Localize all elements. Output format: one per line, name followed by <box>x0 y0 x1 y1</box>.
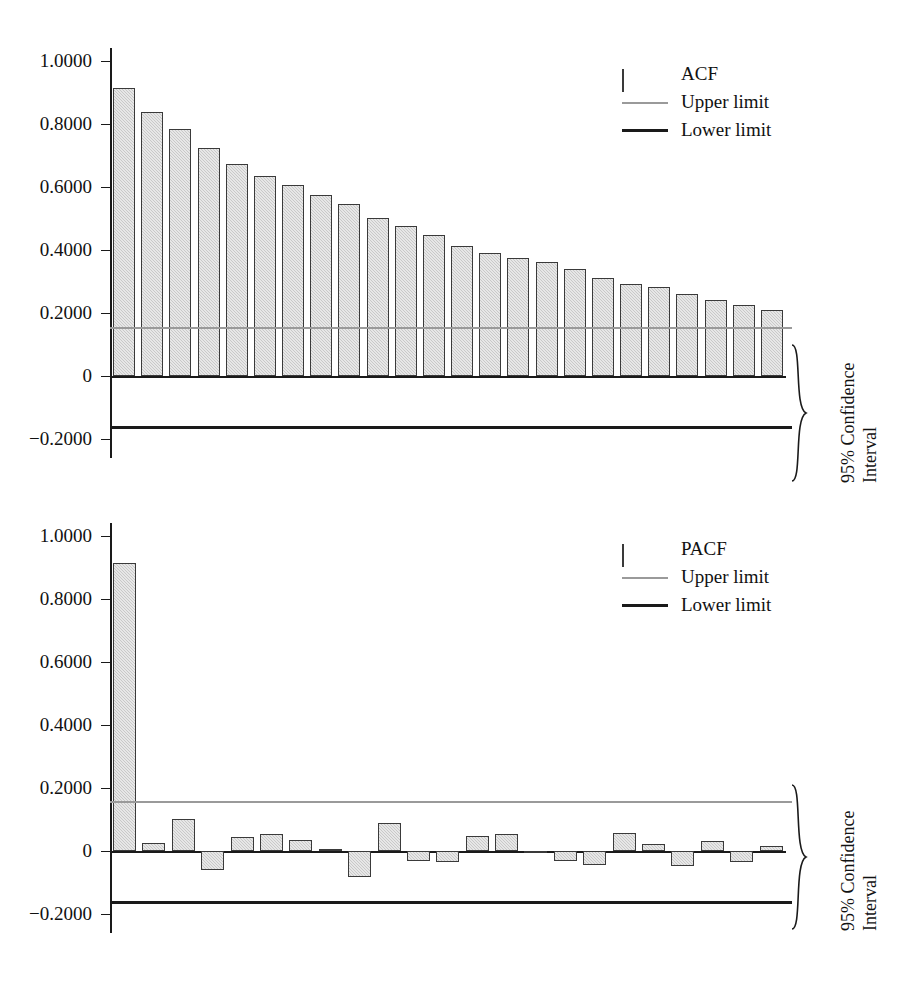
legend-item-lower-limit: Lower limit <box>622 591 771 619</box>
bar <box>676 294 698 376</box>
acf-ci-text-line2: Interval <box>860 427 881 483</box>
pacf-ci-text-line1: 95% Confidence <box>838 811 859 931</box>
y-axis-tick-label: 0 <box>0 841 92 860</box>
y-axis-tick <box>101 599 110 600</box>
upper-limit-line-icon <box>622 95 668 110</box>
y-axis-tick <box>101 61 110 62</box>
acf-ci-text-line1: 95% Confidence <box>838 363 859 483</box>
pacf-confidence-annotation: 95% Confidence Interval <box>790 783 905 931</box>
zero-baseline <box>110 376 786 378</box>
y-axis-tick-label: 0 <box>0 366 92 385</box>
bar <box>348 851 371 877</box>
y-axis-tick-label: 0.8000 <box>0 114 92 133</box>
bar <box>524 851 547 853</box>
y-axis-tick-label: 0.4000 <box>0 715 92 734</box>
y-axis-tick-label: 1.0000 <box>0 51 92 70</box>
bar <box>436 851 459 862</box>
acf-legend: ACF Upper limit Lower limit <box>622 60 771 144</box>
lower-limit-line <box>110 901 792 904</box>
legend-item-upper-limit: Upper limit <box>622 88 771 116</box>
bar <box>169 129 191 376</box>
y-axis-line <box>110 48 112 458</box>
y-axis-tick <box>101 439 110 440</box>
lower-limit-line <box>110 426 792 429</box>
bar <box>479 253 501 376</box>
pacf-ci-text-line2: Interval <box>860 875 881 931</box>
bar <box>172 819 195 851</box>
y-axis-tick <box>101 124 110 125</box>
bar <box>282 185 304 376</box>
page-header-text <box>0 0 907 10</box>
pacf-legend: PACF Upper limit Lower limit <box>622 535 771 619</box>
upper-limit-line <box>110 327 792 329</box>
bar <box>760 846 783 851</box>
legend-label-upper-limit: Upper limit <box>681 563 769 591</box>
legend-item-lower-limit: Lower limit <box>622 116 771 144</box>
y-axis-tick <box>101 725 110 726</box>
bar <box>423 235 445 376</box>
bar <box>254 176 276 376</box>
y-axis-tick <box>101 187 110 188</box>
bar <box>648 287 670 376</box>
bar <box>319 849 342 851</box>
legend-label-lower-limit: Lower limit <box>681 591 771 619</box>
y-axis-tick <box>101 914 110 915</box>
y-axis-tick <box>101 662 110 663</box>
bar <box>226 164 248 376</box>
y-axis-tick <box>101 851 110 852</box>
bar <box>451 246 473 376</box>
bar <box>198 148 220 376</box>
y-axis-tick <box>101 376 110 377</box>
upper-limit-line <box>110 801 792 803</box>
y-axis-tick <box>101 788 110 789</box>
acf-confidence-annotation: 95% Confidence Interval <box>790 343 905 483</box>
bar <box>142 843 165 851</box>
y-axis-tick <box>101 536 110 537</box>
bar <box>761 310 783 376</box>
bar <box>466 836 489 851</box>
curly-brace-icon <box>790 783 816 931</box>
bar <box>613 833 636 851</box>
legend-label-lower-limit: Lower limit <box>681 116 771 144</box>
bar <box>231 837 254 851</box>
bar <box>705 300 727 376</box>
bar <box>367 218 389 376</box>
legend-label-acf: ACF <box>681 60 718 88</box>
legend-item-pacf: PACF <box>622 535 771 563</box>
legend-label-upper-limit: Upper limit <box>681 88 769 116</box>
curly-brace-icon <box>790 343 816 483</box>
y-axis-tick-label: 0.6000 <box>0 652 92 671</box>
acf-swatch-icon <box>622 67 668 82</box>
bar <box>260 834 283 851</box>
acf-panel: 1.00000.80000.60000.40000.20000−0.2000 A… <box>0 30 907 500</box>
bar <box>407 851 430 861</box>
figure-page: 1.00000.80000.60000.40000.20000−0.2000 A… <box>0 0 907 986</box>
y-axis-tick-label: −0.2000 <box>0 904 92 923</box>
bar <box>536 262 558 376</box>
legend-label-pacf: PACF <box>681 535 727 563</box>
y-axis-line <box>110 523 112 933</box>
bar <box>310 195 332 376</box>
pacf-swatch-icon <box>622 542 668 557</box>
bar <box>583 851 606 865</box>
bar <box>620 284 642 376</box>
bar <box>733 305 755 376</box>
bar <box>113 88 135 376</box>
y-axis-tick <box>101 250 110 251</box>
bar <box>495 834 518 851</box>
y-axis-tick-label: 1.0000 <box>0 526 92 545</box>
bar <box>201 851 224 870</box>
legend-item-upper-limit: Upper limit <box>622 563 771 591</box>
bar <box>113 563 136 851</box>
y-axis-tick-label: 0.2000 <box>0 303 92 322</box>
y-axis-tick-label: 0.6000 <box>0 177 92 196</box>
bar <box>701 841 724 851</box>
bar <box>671 851 694 866</box>
bar <box>141 112 163 376</box>
bar <box>395 226 417 376</box>
y-axis-tick-label: 0.8000 <box>0 589 92 608</box>
bar <box>554 851 577 861</box>
upper-limit-line-icon <box>622 570 668 585</box>
y-axis-tick-label: −0.2000 <box>0 429 92 448</box>
bar <box>338 204 360 376</box>
